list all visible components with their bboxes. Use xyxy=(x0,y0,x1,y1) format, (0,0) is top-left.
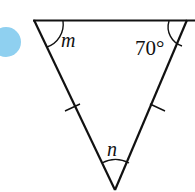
angle-arc-70 xyxy=(168,21,182,46)
angle-label-70: 70° xyxy=(135,36,164,60)
angle-label-n: n xyxy=(107,138,117,160)
blue-marker-circle xyxy=(0,27,21,57)
angle-arc-n xyxy=(102,160,129,163)
angle-label-m: m xyxy=(61,29,75,51)
triangle-diagram: m 70° n xyxy=(0,0,195,192)
tick-mark-right xyxy=(150,104,165,111)
